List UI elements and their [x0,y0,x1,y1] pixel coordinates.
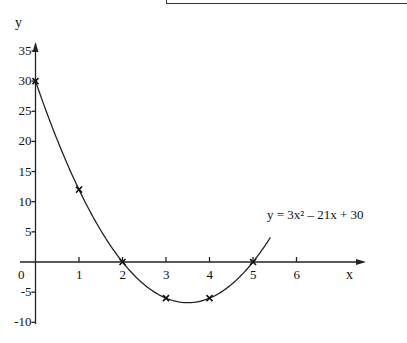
y-tick-label: 30 [19,74,32,87]
y-tick-label: -5 [21,285,32,298]
y-axis-label: y [15,16,22,29]
x-tick-label: 1 [76,268,83,281]
x-tick-label: 3 [163,268,170,281]
cross-marker [76,187,82,193]
x-tick-label: 2 [120,268,127,281]
y-tick-label: 15 [19,165,32,178]
cross-marker [207,295,213,301]
x-tick-label: 6 [294,268,301,281]
y-tick-label: -10 [14,315,31,328]
y-tick-label: 20 [19,134,32,147]
cross-marker [163,295,169,301]
x-axis-label: x [346,268,353,281]
y-tick-label: 25 [19,104,32,117]
y-tick-label: 35 [19,44,32,57]
equation-label: y = 3x² – 21x + 30 [267,208,364,221]
x-tick-label: 4 [207,268,214,281]
quadratic-curve [36,81,271,303]
x-tick-label: 5 [250,268,257,281]
y-tick-label: 5 [25,225,32,238]
origin-label: 0 [18,268,25,281]
plotted-points [33,78,257,301]
axes [20,42,366,324]
y-tick-label: 10 [19,195,32,208]
